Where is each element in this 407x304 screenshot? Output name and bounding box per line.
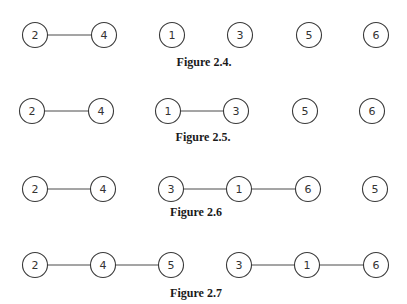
- graph-figures-canvas: 241356Figure 2.4.241356Figure 2.5.243165…: [0, 0, 407, 304]
- node-2: 2: [23, 177, 48, 202]
- node-label: 6: [369, 105, 376, 118]
- node-5: 5: [159, 253, 184, 278]
- node-label: 2: [32, 29, 39, 42]
- node-3: 3: [227, 253, 252, 278]
- node-2: 2: [23, 23, 48, 48]
- node-1: 1: [227, 177, 252, 202]
- figure-4: 245316Figure 2.7: [23, 253, 389, 301]
- figure-2: 241356Figure 2.5.: [20, 99, 385, 145]
- node-label: 5: [306, 29, 313, 42]
- node-label: 1: [165, 105, 172, 118]
- node-4: 4: [89, 99, 114, 124]
- node-3: 3: [159, 177, 184, 202]
- node-1: 1: [160, 23, 185, 48]
- node-label: 1: [236, 183, 243, 196]
- node-label: 4: [100, 183, 107, 196]
- node-6: 6: [296, 177, 321, 202]
- figure-caption: Figure 2.7: [170, 286, 222, 300]
- node-6: 6: [364, 23, 389, 48]
- node-label: 2: [32, 259, 39, 272]
- node-3: 3: [224, 99, 249, 124]
- node-label: 6: [373, 29, 380, 42]
- figure-1: 241356Figure 2.4.: [23, 23, 389, 70]
- node-label: 3: [236, 259, 243, 272]
- node-2: 2: [20, 99, 45, 124]
- figure-caption: Figure 2.6: [170, 205, 222, 219]
- node-6: 6: [360, 99, 385, 124]
- node-label: 5: [168, 259, 175, 272]
- node-label: 5: [372, 183, 379, 196]
- node-label: 1: [304, 259, 311, 272]
- node-1: 1: [295, 253, 320, 278]
- node-label: 6: [373, 259, 380, 272]
- figure-caption: Figure 2.4.: [177, 55, 232, 69]
- node-label: 1: [169, 29, 176, 42]
- node-5: 5: [363, 177, 388, 202]
- node-3: 3: [228, 23, 253, 48]
- node-label: 3: [233, 105, 240, 118]
- figure-3: 243165Figure 2.6: [23, 177, 388, 220]
- node-2: 2: [23, 253, 48, 278]
- node-1: 1: [156, 99, 181, 124]
- node-4: 4: [91, 253, 116, 278]
- node-label: 2: [29, 105, 36, 118]
- node-6: 6: [364, 253, 389, 278]
- node-label: 6: [305, 183, 312, 196]
- node-5: 5: [293, 99, 318, 124]
- node-label: 3: [237, 29, 244, 42]
- node-label: 5: [302, 105, 309, 118]
- node-label: 2: [32, 183, 39, 196]
- figure-caption: Figure 2.5.: [176, 130, 231, 144]
- node-5: 5: [297, 23, 322, 48]
- node-label: 4: [98, 105, 105, 118]
- node-label: 3: [168, 183, 175, 196]
- node-4: 4: [92, 23, 117, 48]
- node-label: 4: [101, 29, 108, 42]
- node-4: 4: [91, 177, 116, 202]
- node-label: 4: [100, 259, 107, 272]
